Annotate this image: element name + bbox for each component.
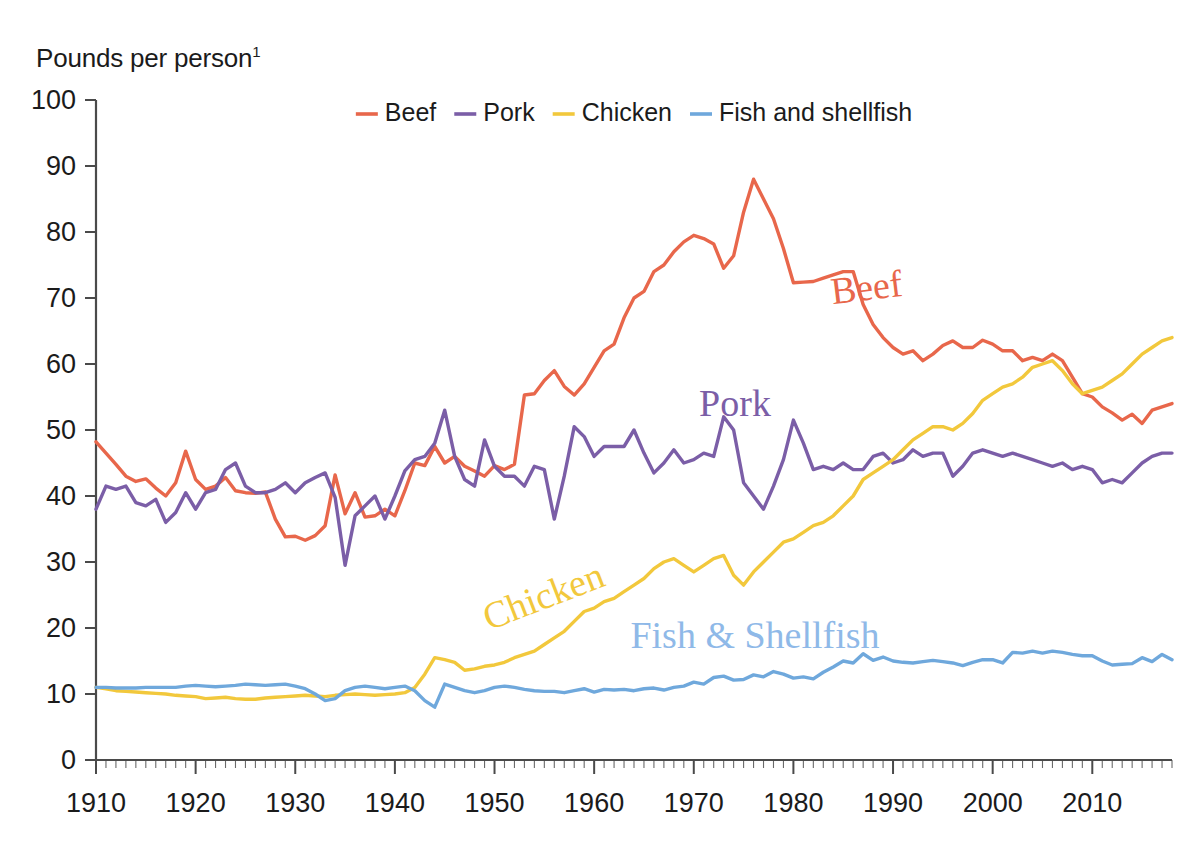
y-tick-label: 70 bbox=[46, 283, 76, 313]
x-tick-label: 1960 bbox=[564, 788, 624, 818]
annotation-chicken: Chicken bbox=[477, 554, 610, 639]
x-tick-label: 2000 bbox=[963, 788, 1023, 818]
legend-label-fish-and-shellfish: Fish and shellfish bbox=[719, 98, 912, 126]
x-axis-ticks: 1910192019301940195019601970198019902000… bbox=[66, 760, 1172, 818]
y-tick-label: 0 bbox=[61, 745, 76, 775]
x-tick-label: 1970 bbox=[664, 788, 724, 818]
y-tick-label: 90 bbox=[46, 151, 76, 181]
y-axis-ticks: 0102030405060708090100 bbox=[31, 85, 96, 775]
chart-legend: BeefPorkChickenFish and shellfish bbox=[356, 98, 912, 126]
y-tick-label: 40 bbox=[46, 481, 76, 511]
x-tick-label: 1980 bbox=[763, 788, 823, 818]
chart-page: Pounds per person1 010203040506070809010… bbox=[0, 0, 1186, 846]
y-tick-label: 10 bbox=[46, 679, 76, 709]
x-tick-label: 1950 bbox=[464, 788, 524, 818]
y-tick-label: 30 bbox=[46, 547, 76, 577]
x-tick-label: 2010 bbox=[1062, 788, 1122, 818]
x-tick-label: 1990 bbox=[863, 788, 923, 818]
legend-label-beef: Beef bbox=[385, 98, 436, 126]
y-tick-label: 20 bbox=[46, 613, 76, 643]
annotation-beef: Beef bbox=[828, 262, 905, 312]
legend-label-chicken: Chicken bbox=[582, 98, 672, 126]
annotation-fish: Fish & Shellfish bbox=[630, 614, 879, 656]
x-tick-label: 1930 bbox=[265, 788, 325, 818]
series-line-beef bbox=[96, 179, 1172, 540]
series-line-pork bbox=[96, 410, 1172, 565]
x-tick-label: 1920 bbox=[166, 788, 226, 818]
meat-consumption-line-chart: 0102030405060708090100 19101920193019401… bbox=[0, 0, 1186, 846]
y-tick-label: 60 bbox=[46, 349, 76, 379]
y-tick-label: 80 bbox=[46, 217, 76, 247]
legend-label-pork: Pork bbox=[483, 98, 535, 126]
x-tick-label: 1940 bbox=[365, 788, 425, 818]
annotation-pork: Pork bbox=[699, 382, 771, 424]
x-tick-label: 1910 bbox=[66, 788, 126, 818]
y-tick-label: 100 bbox=[31, 85, 76, 115]
y-tick-label: 50 bbox=[46, 415, 76, 445]
